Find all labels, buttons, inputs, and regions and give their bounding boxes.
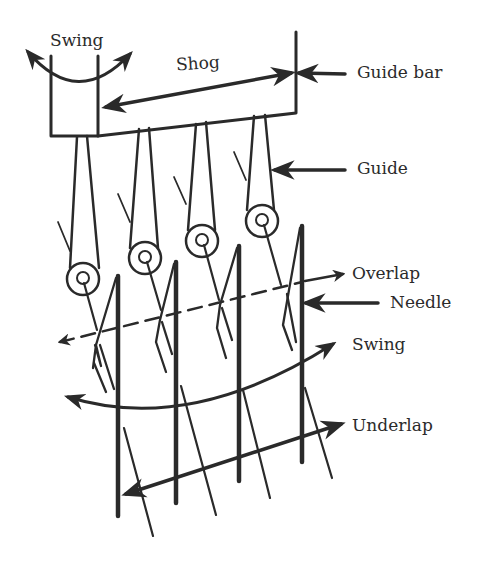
- label-swing-top: Swing: [50, 32, 103, 49]
- label-needle: Needle: [390, 294, 451, 311]
- label-guide: Guide: [357, 160, 408, 177]
- guide-1: [58, 136, 99, 330]
- diagram-canvas: [0, 0, 481, 568]
- needle-2: [156, 262, 216, 515]
- shog-arrow-icon: [106, 73, 291, 107]
- overlap-arrow-icon: [60, 282, 302, 342]
- label-guide-bar: Guide bar: [357, 64, 442, 81]
- overlap-arrow-tip-icon: [305, 274, 343, 281]
- guides: [58, 115, 281, 330]
- guide-2: [118, 128, 161, 310]
- label-swing-bottom: Swing: [352, 336, 405, 353]
- label-overlap: Overlap: [352, 265, 420, 282]
- swing-bottom-arrow-icon: [68, 344, 333, 408]
- underlap-arrow-icon: [126, 424, 341, 494]
- guide-bar-pointer-icon: [299, 73, 345, 74]
- label-underlap: Underlap: [352, 417, 433, 434]
- guide-3: [174, 122, 219, 300]
- label-shog: Shog: [175, 53, 220, 73]
- swing-top-arrow-icon: [28, 52, 130, 82]
